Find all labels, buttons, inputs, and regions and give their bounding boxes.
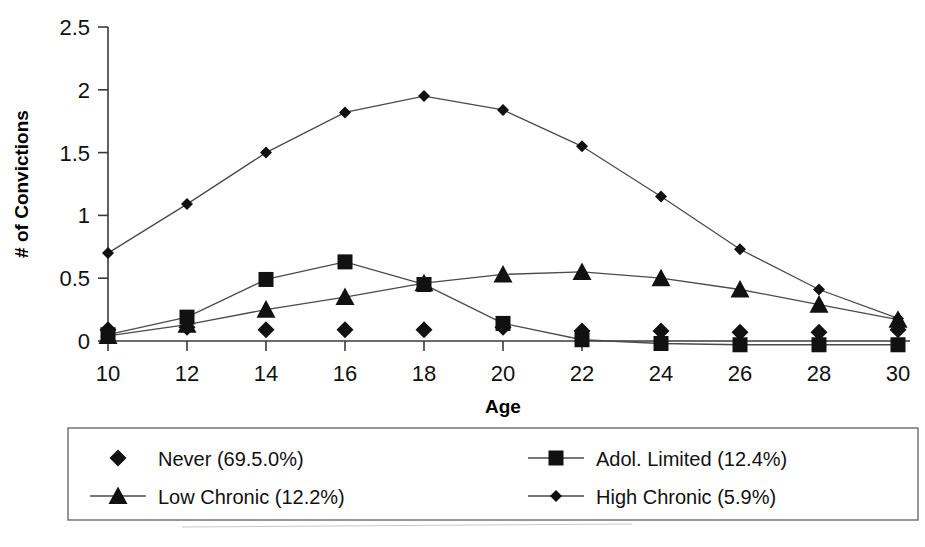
- legend-marker-square: [549, 451, 564, 466]
- y-axis-title: # of Convictions: [11, 110, 32, 258]
- x-tick-label: 30: [886, 361, 910, 386]
- y-tick-label: 0: [78, 329, 90, 354]
- data-point-smalldiamond: [576, 140, 588, 152]
- x-tick-label: 12: [175, 361, 199, 386]
- data-point-square: [496, 316, 511, 331]
- x-tick-label: 22: [570, 361, 594, 386]
- x-tick-label: 14: [254, 361, 278, 386]
- legend-marker-triangle: [109, 487, 128, 505]
- scan-rule: [182, 524, 632, 527]
- x-tick-label: 20: [491, 361, 515, 386]
- series-line-smalldiamond: [108, 96, 898, 318]
- data-point-smalldiamond: [734, 243, 746, 255]
- data-point-smalldiamond: [813, 284, 825, 296]
- x-tick-label: 18: [412, 361, 436, 386]
- y-tick-label: 1.5: [59, 141, 90, 166]
- y-tick-label: 1: [78, 203, 90, 228]
- y-tick-label: 2: [78, 78, 90, 103]
- x-tick-label: 24: [649, 361, 673, 386]
- legend-label: Never (69.5.0%): [158, 448, 304, 470]
- data-point-smalldiamond: [497, 104, 509, 116]
- legend-label: Low Chronic (12.2%): [158, 486, 345, 508]
- y-tick-label: 2.5: [59, 15, 90, 40]
- legend-entry[interactable]: Never (69.5.0%): [110, 448, 304, 470]
- legend-entry[interactable]: Adol. Limited (12.4%): [528, 448, 787, 470]
- data-point-square: [812, 337, 827, 352]
- data-point-smalldiamond: [181, 198, 193, 210]
- x-axis-title: Age: [485, 396, 521, 417]
- data-point-diamond: [337, 321, 354, 338]
- data-point-smalldiamond: [260, 147, 272, 159]
- chart-figure: 00.511.522.51012141618202224262830Age# o…: [0, 0, 925, 547]
- data-point-diamond: [258, 321, 275, 338]
- convictions-by-age-line-chart: 00.511.522.51012141618202224262830Age# o…: [0, 0, 925, 547]
- y-tick-label: 0.5: [59, 266, 90, 291]
- data-point-square: [654, 336, 669, 351]
- legend-label: Adol. Limited (12.4%): [596, 448, 787, 470]
- data-point-smalldiamond: [339, 106, 351, 118]
- legend-entry[interactable]: High Chronic (5.9%): [528, 486, 776, 508]
- x-tick-label: 16: [333, 361, 357, 386]
- data-point-square: [891, 337, 906, 352]
- data-point-square: [575, 332, 590, 347]
- x-tick-label: 26: [728, 361, 752, 386]
- x-tick-label: 10: [96, 361, 120, 386]
- data-point-smalldiamond: [418, 90, 430, 102]
- x-tick-label: 28: [807, 361, 831, 386]
- data-point-smalldiamond: [102, 247, 114, 259]
- legend-entry[interactable]: Low Chronic (12.2%): [90, 486, 345, 508]
- data-point-square: [259, 272, 274, 287]
- data-point-square: [733, 337, 748, 352]
- data-point-diamond: [416, 321, 433, 338]
- legend-marker-diamond: [110, 450, 127, 467]
- legend-marker-smalldiamond: [550, 490, 562, 502]
- data-point-smalldiamond: [655, 191, 667, 203]
- data-point-triangle: [573, 262, 592, 280]
- legend-label: High Chronic (5.9%): [596, 486, 776, 508]
- data-point-square: [338, 254, 353, 269]
